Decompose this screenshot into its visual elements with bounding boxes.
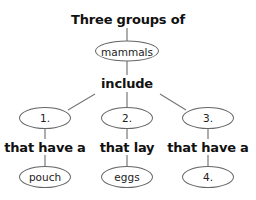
leaf-node-1-label: pouch <box>29 171 61 183</box>
branch-link-1: that have a <box>4 140 85 155</box>
root-node-ellipse: mammals <box>95 41 159 62</box>
branch-link-3: that have a <box>167 140 248 155</box>
top-label: Three groups of <box>71 12 185 27</box>
root-node-label: mammals <box>101 45 153 57</box>
branch-link-2: that lay <box>100 140 155 155</box>
leaf-node-3: 4. <box>182 166 234 188</box>
connector-include-to-branch-3 <box>160 94 186 110</box>
branch-node-2-label: 2. <box>122 112 132 124</box>
leaf-node-2: eggs <box>101 166 153 188</box>
leaf-node-1: pouch <box>19 166 71 188</box>
leaf-node-2-label: eggs <box>114 171 139 183</box>
leaf-node-3-label: 4. <box>203 171 213 183</box>
branch-node-3: 3. <box>182 107 234 129</box>
root-link-label: include <box>101 76 153 91</box>
branch-node-3-label: 3. <box>203 112 213 124</box>
branch-node-2: 2. <box>101 107 153 129</box>
branch-node-1: 1. <box>19 107 71 129</box>
branch-node-1-label: 1. <box>40 112 50 124</box>
connector-include-to-branch-1 <box>68 94 95 110</box>
